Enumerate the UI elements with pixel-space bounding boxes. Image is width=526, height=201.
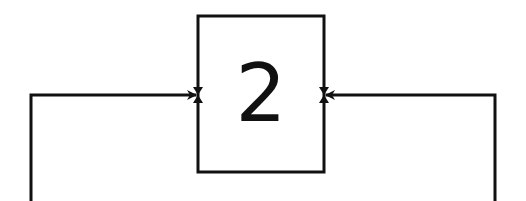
edge-right-line: [326, 95, 495, 201]
node-label: 2: [198, 16, 324, 172]
edge-left-line: [31, 95, 196, 201]
